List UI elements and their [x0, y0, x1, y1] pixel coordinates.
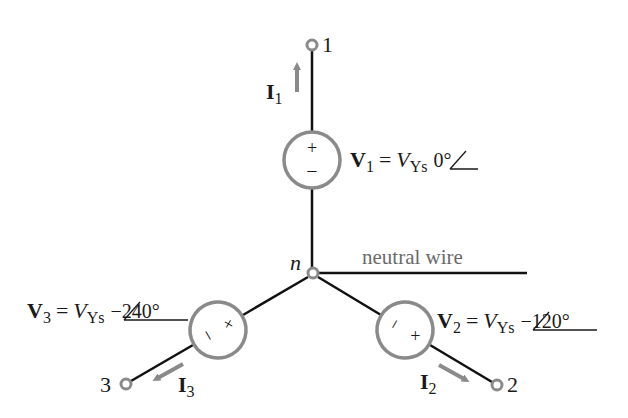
source-2-equation: V2=VYs−120° — [437, 308, 597, 336]
source-1-plus: + — [307, 138, 317, 158]
current-2-label: I2 — [420, 369, 437, 397]
voltage-source-2: − + — [367, 292, 443, 368]
wye-source-diagram: + − + − − + 1 2 3 n neutral wire I1 I2 I… — [0, 0, 628, 418]
source-1-equation: V1=VYs0° — [350, 147, 478, 175]
current-3-label: I3 — [178, 372, 195, 400]
terminal-1-label: 1 — [322, 32, 333, 57]
voltage-source-3: + − — [180, 292, 256, 368]
current-1-label: I1 — [266, 79, 283, 107]
terminal-1 — [307, 40, 317, 50]
source-1-minus: − — [306, 160, 317, 182]
wire-phase-3-upper — [243, 277, 308, 315]
terminal-2-label: 2 — [507, 372, 518, 397]
terminal-3 — [121, 379, 131, 389]
node-n — [308, 268, 318, 278]
terminal-3-label: 3 — [100, 372, 111, 397]
svg-text:V1=VYs0°: V1=VYs0° — [350, 147, 452, 175]
neutral-wire-label: neutral wire — [362, 245, 463, 269]
source-3-equation: V3=VYs−240° — [27, 298, 188, 326]
terminal-2 — [492, 380, 502, 390]
circuit-svg: + − + − − + 1 2 3 n neutral wire I1 I2 I… — [0, 0, 628, 418]
svg-text:V2=VYs−120°: V2=VYs−120° — [437, 308, 570, 336]
node-n-label: n — [290, 250, 301, 275]
wire-phase-2-upper — [318, 277, 381, 315]
voltage-source-1: + − — [284, 132, 340, 188]
source-2-plus: + — [410, 326, 420, 346]
current-arrow-2 — [439, 365, 466, 380]
